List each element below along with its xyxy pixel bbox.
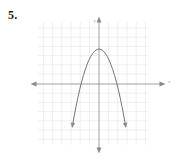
figure-container: 5.	[0, 0, 181, 163]
grid-lines	[38, 22, 148, 145]
x-axis-right-arrowhead	[160, 82, 166, 87]
y-axis-down-arrowhead	[97, 148, 102, 154]
coordinate-plane-svg: y x	[0, 0, 181, 163]
x-axis-label: x	[168, 79, 171, 84]
graph-canvas: y x	[0, 0, 181, 163]
x-axis-left-arrowhead	[31, 82, 37, 87]
y-axis-label: y	[94, 18, 97, 23]
y-axis-up-arrowhead	[97, 17, 102, 23]
